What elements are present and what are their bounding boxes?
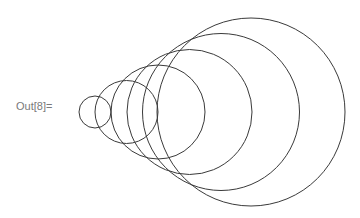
- circle-4: [127, 50, 252, 175]
- circle-5: [143, 34, 300, 191]
- circle-6: [157, 18, 345, 206]
- circles-graphic-output: [0, 0, 360, 218]
- circle-group: [79, 18, 345, 206]
